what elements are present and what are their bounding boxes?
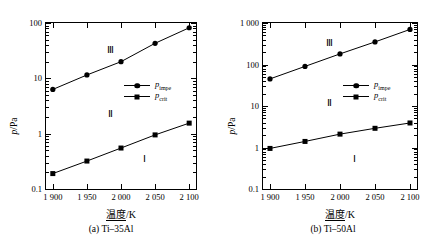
panel-a-y-minor-tick [46, 81, 49, 82]
panel-b-y-minor-tick [414, 157, 417, 158]
panel-b-plot-area: pimpepcrit 0.11101001 0001 9001 9502 000… [262, 22, 418, 190]
square-marker-icon [354, 94, 359, 99]
panel-a-y-minor-tick [193, 26, 196, 27]
panel-b-y-minor-tick [263, 110, 266, 111]
panel-a-x-tick-label-1: 1 950 [77, 193, 96, 202]
panel-b-y-minor-tick [414, 154, 417, 155]
panel-b-legend-marker-crit-icon [343, 96, 369, 97]
circle-marker-icon [134, 83, 140, 89]
panel-b-y-minor-tick [414, 35, 417, 36]
panel-a-y-axis-title: p/Pa [9, 117, 19, 134]
panel-a-y-minor-tick [46, 142, 49, 143]
panel-a-y-tick-label-3: 100 [29, 19, 42, 28]
panel-a-y-minor-tick [46, 156, 49, 157]
panel-b-x-tick-3-top [375, 23, 376, 28]
panel-b-y-minor-tick [263, 123, 266, 124]
panel-b-x-tick-label-3: 2 050 [365, 193, 384, 202]
panel-b-legend-marker-impe-icon [343, 85, 369, 86]
panel-b-y-minor-tick [263, 115, 266, 116]
panel-a-y-minor-tick [46, 87, 49, 88]
panel-a-y-minor-tick [46, 136, 49, 137]
panel-b-point-p_crit-3 [373, 126, 378, 131]
panel-a-legend-label-1: pcrit [155, 91, 167, 102]
panel-b-y-minor-tick [414, 112, 417, 113]
panel-a-y-minor-tick [46, 35, 49, 36]
panel-a-point-p_impe-1 [84, 72, 89, 77]
panel-b-y-minor-tick [263, 69, 266, 70]
panel-a-legend: pimpepcrit [124, 80, 171, 102]
panel-b-point-p_impe-3 [372, 39, 377, 44]
panel-a-y-minor-tick [193, 146, 196, 147]
panel-b-y-tick-4-right [412, 23, 417, 24]
panel-a-data-series [46, 23, 196, 189]
panel-b-y-minor-tick [414, 110, 417, 111]
panel-a-y-tick-label-2: 10 [34, 74, 43, 83]
panel-b-y-minor-tick [263, 77, 266, 78]
panel-a-y-tick-label-0: 0.1 [31, 185, 42, 194]
panel-b-point-p_crit-0 [268, 146, 273, 151]
panel-b-y-tick-3-left [263, 65, 268, 66]
panel-b-y-minor-tick [263, 164, 266, 165]
panel-b-y-tick-0-left [263, 189, 268, 190]
panel-b-y-minor-tick [263, 160, 266, 161]
panel-b-x-tick-label-0: 1 900 [260, 193, 279, 202]
panel-a-point-p_crit-2 [119, 146, 124, 151]
panel-b-data-series [263, 23, 417, 189]
panel-b-y-tick-1-right [412, 148, 417, 149]
panel-b-y-minor-tick [263, 32, 266, 33]
panel-a-y-minor-tick [193, 107, 196, 108]
panel-a-y-minor-tick [46, 100, 49, 101]
panel-b-y-minor-tick [414, 86, 417, 87]
panel-b-y-minor-tick [414, 128, 417, 129]
panel-a-y-minor-tick [193, 35, 196, 36]
panel-b-y-minor-tick [414, 77, 417, 78]
panel-b-y-minor-tick [414, 94, 417, 95]
panel-a-y-minor-tick [193, 163, 196, 164]
panel-a-x-tick-0-bottom [53, 184, 54, 189]
panel-b-point-p_impe-2 [337, 51, 342, 56]
panel-b-y-minor-tick [414, 149, 417, 150]
panel-a-point-p_crit-0 [50, 171, 55, 176]
panel-b-legend-item-0: pimpe [343, 80, 390, 91]
panel-b-region-label-2: Ⅰ [353, 154, 356, 164]
panel-b-y-minor-tick [414, 74, 417, 75]
panel-b-y-minor-tick [263, 128, 266, 129]
panel-a-y-minor-tick [193, 45, 196, 46]
panel-b-point-p_crit-1 [303, 139, 308, 144]
panel-a-y-minor-tick [193, 52, 196, 53]
panel-b-x-tick-0-bottom [270, 184, 271, 189]
panel-b-y-minor-tick [414, 160, 417, 161]
panel-a-legend-marker-crit-icon [124, 96, 150, 97]
figure-two-panel-log-plots: p/Pa pimpepcrit 0.11101001 9001 9502 000… [0, 0, 444, 251]
panel-b-y-minor-tick [263, 112, 266, 113]
panel-a-y-minor-tick [46, 84, 49, 85]
panel-a-y-tick-2-right [191, 78, 196, 79]
panel-a-x-tick-3-bottom [155, 184, 156, 189]
panel-a-y-minor-tick [193, 32, 196, 33]
panel-b-y-tick-label-1: 1 [255, 143, 259, 152]
panel-b-y-minor-tick [263, 45, 266, 46]
panel-a-x-axis-label-cn: 温度 [106, 209, 126, 221]
panel-b-y-minor-tick [414, 52, 417, 53]
panel-b-y-tick-label-2: 10 [251, 102, 260, 111]
panel-b-y-minor-tick [263, 29, 266, 30]
panel-a-y-tick-2-left [46, 78, 51, 79]
panel-b: p/Pa pimpepcrit 0.11101001 0001 9001 950… [222, 0, 444, 251]
panel-a: p/Pa pimpepcrit 0.11101001 9001 9502 000… [0, 0, 222, 251]
panel-a-y-minor-tick [193, 81, 196, 82]
panel-a-y-minor-tick [193, 172, 196, 173]
panel-a-point-p_crit-1 [84, 159, 89, 164]
panel-a-x-tick-2-top [121, 23, 122, 28]
panel-a-y-tick-0-left [46, 189, 51, 190]
panel-a-y-minor-tick [193, 87, 196, 88]
panel-a-y-tick-1-left [46, 134, 51, 135]
panel-b-x-tick-4-top [410, 23, 411, 28]
panel-b-caption: (b) Ti–50Al [222, 224, 444, 234]
square-marker-icon [135, 94, 140, 99]
panel-b-y-tick-label-4: 1 000 [240, 19, 259, 28]
panel-a-x-tick-0-top [53, 23, 54, 28]
panel-b-legend-item-1: pcrit [343, 91, 390, 102]
panel-b-y-tick-2-right [412, 106, 417, 107]
panel-b-y-tick-1-left [263, 148, 268, 149]
panel-a-plot-area: pimpepcrit 0.11101001 9001 9502 0002 050… [45, 22, 197, 190]
